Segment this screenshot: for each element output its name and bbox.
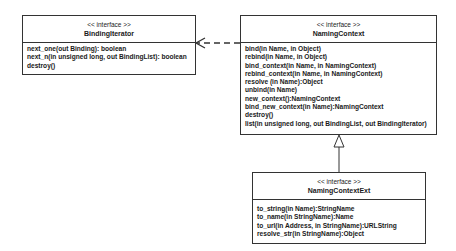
- operation: destroy(): [27, 62, 191, 70]
- operation: new_context():NamingContext: [245, 95, 432, 103]
- operations-list: to_string(in Name):StringName to_name(in…: [253, 200, 425, 240]
- operation: destroy(): [245, 111, 432, 119]
- class-header: << interface >> NamingContext: [241, 16, 436, 43]
- operations-list: next_one(out Binding): boolean next_n(in…: [23, 43, 195, 72]
- operation: to_url(in Address, in StringName):URLStr…: [257, 222, 421, 230]
- operation: resolve_str(in StringName):Object: [257, 230, 421, 238]
- operation: resolve (in Name):Object: [245, 78, 432, 86]
- operation: to_name(in StringName):Name: [257, 213, 421, 221]
- stereotype-label: << interface >>: [253, 178, 425, 186]
- operation: rebind_context(in Name, in NamingContext…: [245, 70, 432, 78]
- class-binding-iterator[interactable]: << interface >> BindingIterator next_one…: [22, 15, 196, 75]
- dependency-arrow: [196, 38, 240, 48]
- class-header: << interface >> NamingContextExt: [253, 173, 425, 200]
- operation: to_string(in Name):StringName: [257, 205, 421, 213]
- operation: next_one(out Binding): boolean: [27, 45, 191, 53]
- operation: bind_context(in Name, in NamingContext): [245, 62, 432, 70]
- class-name: NamingContextExt: [253, 186, 425, 195]
- stereotype-label: << interface >>: [23, 21, 195, 29]
- class-naming-context-ext[interactable]: << interface >> NamingContextExt to_stri…: [252, 172, 426, 244]
- operation: next_n(in unsigned long, out BindingList…: [27, 53, 191, 61]
- operation: unbind(in Name): [245, 86, 432, 94]
- stereotype-label: << interface >>: [241, 21, 436, 29]
- class-header: << interface >> BindingIterator: [23, 16, 195, 43]
- operations-list: bind(in Name, in Object) rebind(in Name,…: [241, 43, 436, 130]
- class-name: BindingIterator: [23, 29, 195, 38]
- operation: bind(in Name, in Object): [245, 45, 432, 53]
- generalization-arrow: [334, 135, 344, 172]
- operation: list(in unsigned long, out BindingList, …: [245, 120, 432, 128]
- operation: bind_new_context(in Name):NamingContext: [245, 103, 432, 111]
- operation: rebind(in Name, in Object): [245, 53, 432, 61]
- class-naming-context[interactable]: << interface >> NamingContext bind(in Na…: [240, 15, 437, 135]
- class-name: NamingContext: [241, 29, 436, 38]
